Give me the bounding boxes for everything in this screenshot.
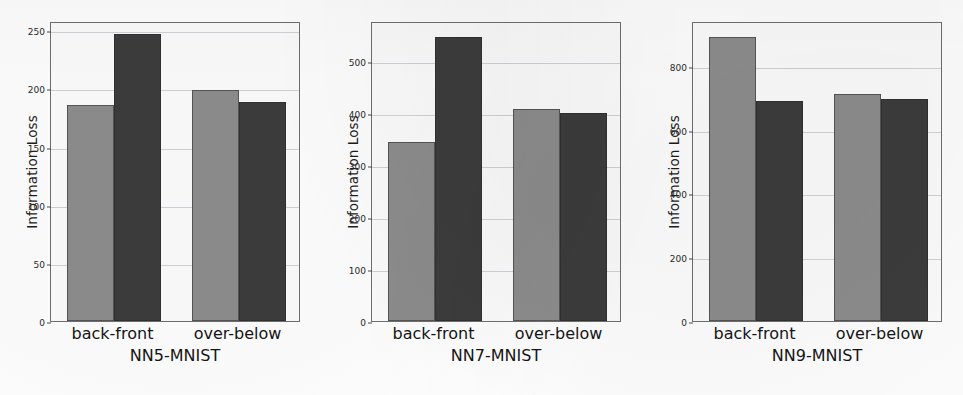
bar-back-front-dark <box>756 101 803 321</box>
bar-over-below-light <box>834 94 881 321</box>
x-axis-tick-label: back-front <box>72 324 154 343</box>
x-axis-tick-labels-nn9: back-frontover-below <box>692 324 942 346</box>
y-axis-tick-label: 0 <box>360 318 366 328</box>
bar-over-below-light <box>513 109 560 321</box>
bar-over-below-dark <box>881 99 928 321</box>
plot-area-nn9: 0200400600800 <box>692 22 942 322</box>
x-axis-tick-label: back-front <box>714 324 796 343</box>
x-axis-label-nn7: NN7-MNIST <box>371 346 621 365</box>
bar-back-front-light <box>67 105 114 321</box>
plot-area-nn7: 0100200300400500 <box>371 22 621 322</box>
x-axis-label-nn9: NN9-MNIST <box>692 346 942 365</box>
bar-over-below-dark <box>560 113 607 321</box>
y-axis-tick-label: 100 <box>349 266 366 276</box>
y-axis-tick-label: 100 <box>28 202 45 212</box>
x-axis-label-nn5: NN5-MNIST <box>50 346 300 365</box>
y-axis-tick-label: 600 <box>670 127 687 137</box>
x-axis-tick-label: over-below <box>194 324 282 343</box>
y-axis-tick-label: 300 <box>349 162 366 172</box>
bar-over-below-dark <box>239 102 286 321</box>
y-axis-tick-label: 400 <box>670 190 687 200</box>
y-axis-label-wrapper-nn5: Information Loss <box>8 22 28 322</box>
y-axis-tick-label: 200 <box>28 85 45 95</box>
y-axis-tick-label: 0 <box>39 318 45 328</box>
y-axis-tick-label: 50 <box>34 260 45 270</box>
bar-series-nn7 <box>372 23 620 321</box>
x-axis-tick-labels-nn5: back-frontover-below <box>50 324 300 346</box>
y-axis-tick-label: 800 <box>670 63 687 73</box>
chart-panel-nn9: Information Loss 0200400600800 back-fron… <box>642 0 963 395</box>
y-axis-tick-label: 250 <box>28 27 45 37</box>
bar-back-front-light <box>388 142 435 321</box>
bar-series-nn5 <box>51 23 299 321</box>
bar-series-nn9 <box>693 23 941 321</box>
bar-back-front-dark <box>114 34 161 321</box>
y-axis-label-wrapper-nn7: Information Loss <box>329 22 349 322</box>
bar-back-front-dark <box>435 37 482 321</box>
y-axis-tick-label: 200 <box>349 214 366 224</box>
y-axis-tick-label: 500 <box>349 58 366 68</box>
chart-panel-nn7: Information Loss 0100200300400500 back-f… <box>321 0 642 395</box>
y-axis-tick-label: 400 <box>349 110 366 120</box>
x-axis-tick-label: back-front <box>393 324 475 343</box>
y-axis-tick-label: 150 <box>28 144 45 154</box>
bar-over-below-light <box>192 90 239 321</box>
y-axis-label-wrapper-nn9: Information Loss <box>650 22 670 322</box>
x-axis-tick-labels-nn7: back-frontover-below <box>371 324 621 346</box>
x-axis-tick-label: over-below <box>515 324 603 343</box>
y-axis-tick-label: 0 <box>681 318 687 328</box>
chart-panel-nn5: Information Loss 050100150200250 back-fr… <box>0 0 321 395</box>
plot-area-nn5: 050100150200250 <box>50 22 300 322</box>
x-axis-tick-label: over-below <box>836 324 924 343</box>
bar-chart-figure: Information Loss 050100150200250 back-fr… <box>0 0 963 395</box>
y-axis-label-nn5: Information Loss <box>22 22 42 322</box>
bar-back-front-light <box>709 37 756 321</box>
y-axis-tick-label: 200 <box>670 254 687 264</box>
